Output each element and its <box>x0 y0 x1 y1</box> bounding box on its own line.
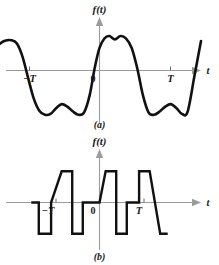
tick-label-T-b: T <box>136 205 143 216</box>
panel-a-plot: f(t) t −T 0 T (a) <box>0 0 219 133</box>
panel-a: f(t) t −T 0 T (a) <box>0 0 219 133</box>
panel-b-plot: f(t) t −T 0 T (b) <box>0 130 219 265</box>
tick-label-minus-T-a: −T <box>23 73 36 84</box>
tick-label-minus-T-b: −T <box>42 205 55 216</box>
x-axis-label-a: t <box>207 65 211 76</box>
tick-label-T-a: T <box>167 73 174 84</box>
figure-root: f(t) t −T 0 T (a) <box>0 0 219 265</box>
tick-label-zero-a: 0 <box>91 73 96 84</box>
tick-label-zero-b: 0 <box>91 205 96 216</box>
y-axis-label-b: f(t) <box>92 135 106 148</box>
x-axis-label-b: t <box>207 197 211 208</box>
panel-caption-b: (b) <box>94 251 106 263</box>
y-axis-label-a: f(t) <box>92 3 106 16</box>
panel-b: f(t) t −T 0 T (b) <box>0 130 219 265</box>
